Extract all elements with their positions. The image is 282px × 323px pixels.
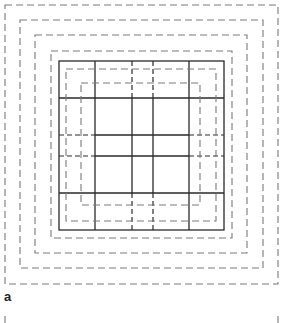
inner-dashed-square-2 bbox=[81, 83, 200, 205]
dashed-square-3 bbox=[35, 35, 247, 253]
dashed-square-4 bbox=[51, 51, 232, 238]
inner-dashed-squares bbox=[66, 69, 216, 221]
outer-dashed-squares bbox=[5, 5, 278, 284]
bottom-tick-marks bbox=[5, 316, 278, 323]
dashed-square-2 bbox=[20, 20, 263, 268]
nested-squares-diagram bbox=[0, 0, 282, 323]
dashed-square-1 bbox=[5, 5, 278, 284]
inner-dashed-square-1 bbox=[66, 69, 216, 221]
panel-label: a bbox=[4, 289, 11, 304]
